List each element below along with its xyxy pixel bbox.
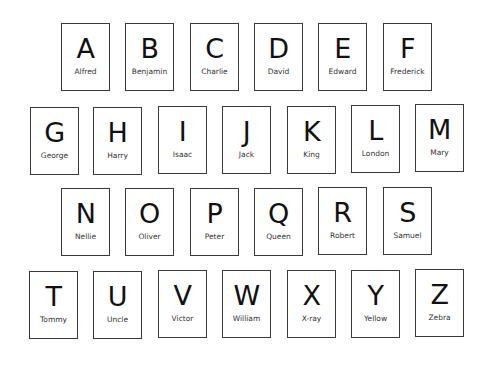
card-name: King	[284, 150, 339, 160]
card-letter: V	[159, 281, 206, 311]
card-letter: B	[126, 34, 173, 64]
letter-card-n: NNellie	[61, 188, 110, 256]
card-letter: T	[30, 282, 77, 312]
card-letter: E	[319, 34, 366, 64]
card-name: Victor	[155, 314, 210, 324]
card-name: Robert	[315, 231, 370, 241]
card-letter: Z	[416, 280, 463, 310]
letter-card-t: TTommy	[29, 271, 78, 339]
card-name: X-ray	[284, 314, 339, 324]
card-name: Oliver	[122, 232, 177, 242]
card-letter: W	[223, 281, 270, 311]
card-name: Jack	[219, 150, 274, 160]
card-letter: S	[384, 198, 431, 228]
card-letter: A	[62, 34, 109, 64]
card-name: Alfred	[58, 67, 113, 77]
card-name: William	[219, 314, 274, 324]
letter-card-u: UUncle	[93, 271, 142, 339]
card-name: Nellie	[58, 232, 113, 242]
card-letter: C	[191, 34, 238, 64]
card-name: Benjamin	[122, 67, 177, 77]
letter-card-w: WWilliam	[222, 270, 271, 338]
card-name: Yellow	[348, 314, 403, 324]
card-letter: N	[62, 199, 109, 229]
card-letter: L	[352, 116, 399, 146]
letter-card-a: AAlfred	[61, 23, 110, 91]
letter-card-d: DDavid	[254, 23, 303, 91]
card-letter: X	[288, 281, 335, 311]
card-name: Isaac	[155, 150, 210, 160]
letter-card-p: PPeter	[190, 188, 239, 256]
card-name: David	[251, 67, 306, 77]
card-name: Peter	[187, 232, 242, 242]
card-name: Frederick	[380, 67, 435, 77]
card-letter: R	[319, 198, 366, 228]
card-letter: U	[94, 282, 141, 312]
card-name: Queen	[251, 232, 306, 242]
card-letter: G	[31, 118, 78, 148]
card-name: Tommy	[26, 315, 81, 325]
letter-card-s: SSamuel	[383, 187, 432, 255]
card-name: Harry	[90, 151, 145, 161]
card-letter: J	[223, 117, 270, 147]
card-letter: D	[255, 34, 302, 64]
card-name: Mary	[412, 148, 467, 158]
card-letter: O	[126, 199, 173, 229]
letter-card-y: YYellow	[351, 270, 400, 338]
letter-card-k: KKing	[287, 106, 336, 174]
letter-card-x: XX-ray	[287, 270, 336, 338]
letter-card-v: VVictor	[158, 270, 207, 338]
card-letter: Q	[255, 199, 302, 229]
letter-card-h: HHarry	[93, 107, 142, 175]
letter-card-c: CCharlie	[190, 23, 239, 91]
card-letter: Y	[352, 281, 399, 311]
letter-card-j: JJack	[222, 106, 271, 174]
card-letter: M	[416, 115, 463, 145]
letter-card-m: MMary	[415, 104, 464, 172]
card-letter: I	[159, 117, 206, 147]
letter-card-o: OOliver	[125, 188, 174, 256]
letter-card-g: GGeorge	[30, 107, 79, 175]
letter-card-e: EEdward	[318, 23, 367, 91]
card-name: Uncle	[90, 315, 145, 325]
letter-card-f: FFrederick	[383, 23, 432, 91]
card-name: Zebra	[412, 313, 467, 323]
card-letter: K	[288, 117, 335, 147]
letter-card-i: IIsaac	[158, 106, 207, 174]
letter-card-q: QQueen	[254, 188, 303, 256]
letter-card-l: LLondon	[351, 105, 400, 173]
letter-card-b: BBenjamin	[125, 23, 174, 91]
letter-card-z: ZZebra	[415, 269, 464, 337]
card-name: London	[348, 149, 403, 159]
letter-card-r: RRobert	[318, 187, 367, 255]
card-name: Charlie	[187, 67, 242, 77]
card-letter: P	[191, 199, 238, 229]
card-letter: F	[384, 34, 431, 64]
card-letter: H	[94, 118, 141, 148]
card-name: Edward	[315, 67, 370, 77]
card-name: George	[27, 151, 82, 161]
card-name: Samuel	[380, 231, 435, 241]
